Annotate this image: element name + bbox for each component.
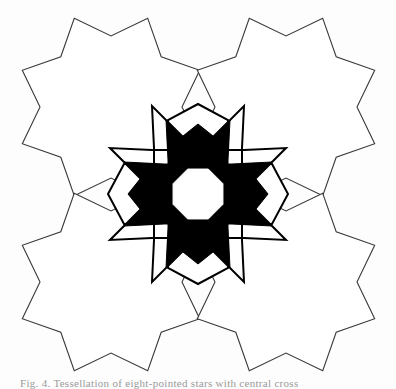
figure-caption: Fig. 4. Tessellation of eight-pointed st… [20,377,299,389]
center-octagon [173,169,223,219]
caption-strip: Fig. 4. Tessellation of eight-pointed st… [0,377,396,389]
figure-canvas: Fig. 4. Tessellation of eight-pointed st… [0,0,396,389]
geometric-pattern [0,0,396,389]
